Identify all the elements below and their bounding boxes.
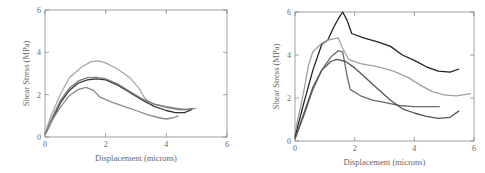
y-tick-label: 2 [37, 91, 41, 100]
x-tick-label: 4 [164, 140, 168, 149]
chart-right: 02460246Displacement (microns)Shear Stre… [245, 0, 485, 173]
x-tick-label: 0 [43, 140, 47, 149]
y-axis-label: Shear Stress (MPa) [21, 41, 31, 107]
chart-right-plot: 02460246Displacement (microns)Shear Stre… [245, 0, 485, 173]
plot-frame [45, 10, 227, 137]
data-series-3 [295, 51, 440, 139]
y-tick-label: 0 [287, 137, 291, 146]
x-tick-label: 6 [225, 140, 229, 149]
x-tick-label: 2 [353, 144, 357, 153]
x-axis-label: Displacement (microns) [95, 153, 177, 163]
x-tick-label: 4 [412, 144, 416, 153]
y-tick-label: 0 [37, 133, 41, 142]
data-series-4 [295, 59, 459, 139]
y-tick-label: 2 [287, 94, 291, 103]
y-tick-label: 6 [287, 8, 291, 17]
x-tick-label: 0 [293, 144, 297, 153]
chart-left: 02460246Displacement (microns)Shear Stre… [0, 0, 240, 173]
x-tick-label: 6 [472, 144, 476, 153]
y-tick-label: 6 [37, 6, 41, 15]
chart-left-plot: 02460246Displacement (microns)Shear Stre… [0, 0, 240, 173]
plot-frame [295, 12, 474, 141]
y-tick-label: 4 [37, 48, 41, 57]
y-axis-label: Shear Stress (MPa) [271, 44, 281, 110]
y-tick-label: 4 [287, 51, 291, 60]
x-axis-label: Displacement (microns) [344, 157, 426, 167]
x-tick-label: 2 [104, 140, 108, 149]
